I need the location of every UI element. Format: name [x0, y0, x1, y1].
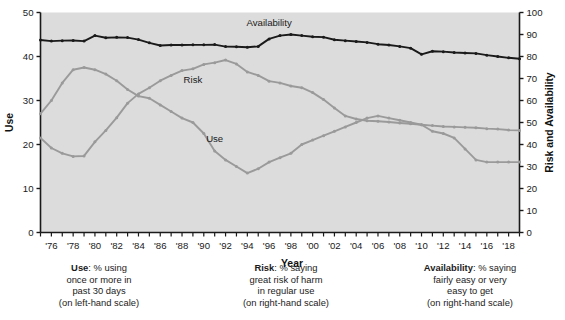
series-point-use [148, 86, 151, 89]
series-point-availability [507, 56, 510, 59]
series-point-availability [300, 34, 303, 37]
series-point-risk [453, 136, 456, 139]
x-tick-label: '88 [176, 240, 189, 251]
series-point-use [442, 125, 445, 128]
series-point-risk [50, 99, 53, 102]
series-point-use [311, 91, 314, 94]
caption-availability: Availability: % saying fairly easy or ve… [378, 262, 562, 308]
y-axis-title: Use [4, 113, 15, 132]
x-tick-label: '00 [306, 240, 319, 251]
x-tick-label: '12 [437, 240, 450, 251]
caption-use-line1: : % using [88, 262, 127, 273]
series-point-availability [398, 45, 401, 48]
y2-tick-label: 90 [527, 29, 538, 40]
x-tick-label: '94 [241, 240, 254, 251]
series-point-use [507, 128, 510, 131]
series-point-availability [366, 41, 369, 44]
series-point-availability [387, 44, 390, 47]
series-point-use [496, 128, 499, 131]
caption-use: Use: % using once or more in past 30 day… [6, 262, 192, 308]
series-point-availability [257, 45, 260, 48]
x-tick-label: '78 [67, 240, 80, 251]
series-point-use [474, 126, 477, 129]
x-tick-label: '08 [393, 240, 406, 251]
x-tick-label: '04 [350, 240, 363, 251]
series-point-risk [289, 152, 292, 155]
series-point-availability [191, 43, 194, 46]
series-point-risk [366, 117, 369, 120]
series-point-availability [496, 55, 499, 58]
series-point-availability [246, 46, 249, 49]
series-point-availability [376, 43, 379, 46]
series-point-use [213, 61, 216, 64]
series-point-use [268, 80, 271, 83]
caption-availability-line1: : % saying [473, 262, 516, 273]
caption-availability-line2: fairly easy or very [433, 274, 506, 285]
series-point-availability [170, 44, 173, 47]
series-point-availability [181, 44, 184, 47]
series-point-use [387, 121, 390, 124]
y2-tick-label: 50 [527, 117, 538, 128]
x-tick-label: '86 [154, 240, 167, 251]
series-point-risk [104, 73, 107, 76]
caption-risk-line4: (on right-hand scale) [243, 297, 329, 308]
series-point-use [518, 129, 521, 132]
series-point-risk [148, 97, 151, 100]
caption-use-line4: (on left-hand scale) [59, 297, 139, 308]
series-point-risk [202, 132, 205, 135]
series-point-use [170, 74, 173, 77]
series-point-availability [289, 33, 292, 36]
series-point-availability [409, 47, 412, 50]
y2-tick-label: 0 [527, 227, 532, 238]
series-point-availability [159, 44, 162, 47]
series-point-use [224, 59, 227, 62]
x-tick-label: '80 [89, 240, 102, 251]
series-point-use [126, 102, 129, 105]
series-point-use [235, 62, 238, 65]
series-point-availability [93, 34, 96, 37]
y2-tick-label: 30 [527, 161, 538, 172]
series-point-use [376, 120, 379, 123]
series-point-availability [344, 39, 347, 42]
series-point-use [50, 147, 53, 150]
series-point-availability [50, 40, 53, 43]
series-point-availability [137, 38, 140, 41]
series-point-risk [181, 117, 184, 120]
series-label-use: Use [206, 133, 223, 144]
series-point-availability [39, 39, 42, 42]
caption-availability-term: Availability [424, 262, 473, 273]
caption-risk-term: Risk [254, 262, 274, 273]
x-tick-label: '84 [132, 240, 145, 251]
series-point-availability [279, 34, 282, 37]
series-point-availability [61, 39, 64, 42]
series-point-risk [72, 68, 75, 71]
series-label-risk: Risk [184, 74, 203, 85]
series-point-risk [344, 125, 347, 128]
y2-tick-label: 100 [527, 7, 543, 18]
x-tick-label: '90 [198, 240, 211, 251]
series-point-availability [104, 36, 107, 39]
series-point-availability [474, 52, 477, 55]
x-tick-label: '96 [263, 240, 276, 251]
series-point-use [485, 127, 488, 130]
series-point-risk [474, 158, 477, 161]
y-tick-label: 10 [23, 183, 34, 194]
series-point-availability [518, 57, 521, 60]
series-point-availability [268, 37, 271, 40]
series-point-availability [224, 45, 227, 48]
series-point-availability [485, 54, 488, 57]
x-tick-label: '82 [110, 240, 123, 251]
series-point-risk [224, 158, 227, 161]
series-point-risk [39, 112, 42, 115]
series-point-use [279, 81, 282, 84]
series-point-risk [83, 66, 86, 69]
series-point-use [300, 86, 303, 89]
series-point-availability [83, 40, 86, 43]
series-point-risk [333, 130, 336, 133]
series-point-risk [159, 103, 162, 106]
x-tick-label: '06 [372, 240, 385, 251]
series-point-risk [496, 161, 499, 164]
series-point-use [39, 136, 42, 139]
caption-use-term: Use [71, 262, 88, 273]
series-point-risk [137, 95, 140, 98]
